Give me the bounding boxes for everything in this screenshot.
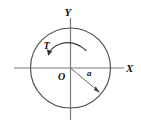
radius-arrowhead-icon [94, 86, 100, 93]
diagram-canvas: Y X O a T [0, 0, 141, 125]
x-axis-label: X [125, 62, 134, 74]
y-axis-label: Y [65, 6, 73, 18]
radius-label: a [87, 68, 92, 78]
torque-arc [50, 43, 87, 53]
torque-label: T [44, 40, 51, 51]
origin-label: O [58, 71, 65, 82]
radius-vector-line [71, 68, 98, 91]
figure-container: Y X O a T [0, 0, 141, 125]
